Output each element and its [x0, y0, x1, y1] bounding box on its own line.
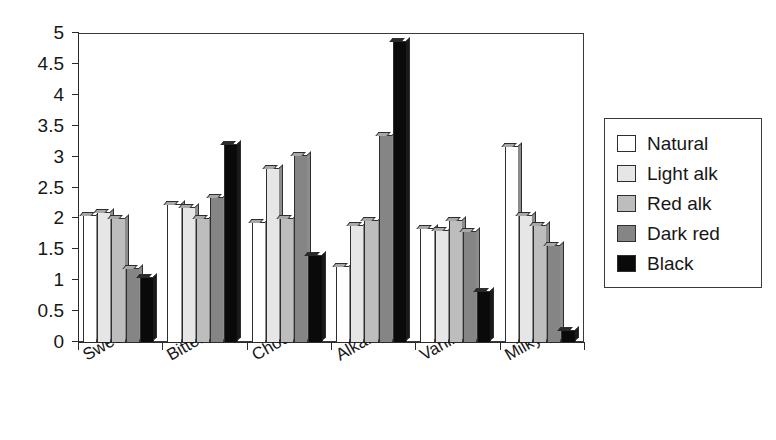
bar-top-face: [431, 227, 447, 231]
chart-legend: NaturalLight alkRed alkDark redBlack: [604, 118, 762, 288]
bar-dark-red-sweet: [126, 268, 140, 342]
bar-top-face: [248, 219, 264, 223]
bar-top-face: [529, 222, 545, 226]
bar-top-face: [558, 327, 574, 331]
bar-dark-red-chocolate: [294, 155, 308, 342]
bar-red-alk-alkaline: [364, 220, 378, 342]
bar-top-face: [501, 143, 517, 147]
y-axis-tick-label: 0.5: [38, 301, 64, 320]
bar-light-alk-chocolate: [266, 168, 280, 342]
bar-light-alk-sweet: [97, 212, 111, 342]
legend-item-label: Red alk: [647, 194, 711, 213]
bar-dark-red-vanilla: [463, 231, 477, 342]
bar-top-face: [192, 215, 208, 219]
bar-dark-red-bitter: [210, 197, 224, 342]
legend-item-red-alk[interactable]: Red alk: [617, 188, 751, 218]
bar-side-face: [575, 326, 579, 341]
bar-top-face: [515, 212, 531, 216]
bar-top-face: [220, 141, 236, 145]
y-axis-tick-label: 5: [53, 23, 64, 42]
bar-black-sweet: [140, 277, 154, 342]
bar-top-face: [445, 217, 461, 221]
legend-swatch-icon: [617, 165, 636, 182]
bar-top-face: [206, 194, 222, 198]
bar-top-face: [389, 38, 405, 42]
bar-light-alk-vanilla: [435, 230, 449, 342]
y-axis-tick-label: 3.5: [38, 115, 64, 134]
bar-light-alk-alkaline: [350, 225, 364, 342]
legend-item-label: Light alk: [647, 164, 718, 183]
bar-black-alkaline: [393, 41, 407, 342]
bar-natural-milky: [505, 146, 519, 342]
bar-light-alk-bitter: [182, 207, 196, 342]
bar-top-face: [347, 222, 363, 226]
y-axis-tick-label: 1.5: [38, 239, 64, 258]
bar-dark-red-alkaline: [379, 135, 393, 342]
bar-top-face: [136, 274, 152, 278]
bar-side-face: [322, 252, 326, 341]
x-axis-tick: [584, 342, 585, 350]
bar-top-face: [291, 152, 307, 156]
bar-natural-chocolate: [252, 222, 266, 343]
bar-top-face: [473, 288, 489, 292]
y-axis-tick-label: 3: [53, 146, 64, 165]
bar-top-face: [262, 165, 278, 169]
bar-top-face: [417, 225, 433, 229]
legend-item-light-alk[interactable]: Light alk: [617, 158, 751, 188]
y-axis-tick-label: 2.5: [38, 177, 64, 196]
bar-side-face: [237, 141, 241, 341]
legend-swatch-icon: [617, 225, 636, 242]
legend-item-label: Black: [647, 254, 693, 273]
y-axis-tick-label: 0: [53, 332, 64, 351]
bar-red-alk-chocolate: [280, 218, 294, 342]
bar-red-alk-vanilla: [449, 220, 463, 342]
bar-chart: 00.511.522.533.544.55 SweetBitterChocola…: [0, 0, 776, 440]
legend-item-black[interactable]: Black: [617, 248, 751, 278]
bars-layer: [78, 33, 584, 342]
legend-swatch-icon: [617, 255, 636, 272]
bar-top-face: [361, 217, 377, 221]
bar-top-face: [375, 132, 391, 136]
bar-side-face: [406, 37, 410, 340]
legend-item-label: Natural: [647, 134, 708, 153]
bar-natural-vanilla: [420, 228, 434, 342]
bar-black-bitter: [224, 144, 238, 342]
bar-natural-sweet: [83, 215, 97, 342]
y-axis-tick-label: 2: [53, 208, 64, 227]
legend-swatch-icon: [617, 195, 636, 212]
bar-top-face: [94, 209, 110, 213]
bar-black-milky: [561, 330, 575, 342]
bar-top-face: [108, 215, 124, 219]
bar-side-face: [560, 241, 564, 340]
legend-item-natural[interactable]: Natural: [617, 128, 751, 158]
bar-top-face: [459, 228, 475, 232]
x-axis-tick: [78, 342, 79, 350]
bar-natural-alkaline: [336, 266, 350, 342]
bar-top-face: [122, 265, 138, 269]
bar-top-face: [276, 215, 292, 219]
legend-item-dark-red[interactable]: Dark red: [617, 218, 751, 248]
bar-red-alk-sweet: [111, 218, 125, 342]
y-axis-tick-label: 1: [53, 270, 64, 289]
bar-top-face: [178, 204, 194, 208]
bar-side-face: [153, 273, 157, 340]
bar-top-face: [544, 242, 560, 246]
bar-top-face: [332, 263, 348, 267]
y-axis-tick-label: 4.5: [38, 53, 64, 72]
legend-item-label: Dark red: [647, 224, 720, 243]
bar-red-alk-bitter: [196, 218, 210, 342]
bar-black-chocolate: [308, 255, 322, 342]
bar-top-face: [164, 201, 180, 205]
x-axis-tick: [500, 342, 501, 350]
bar-natural-bitter: [167, 204, 181, 342]
bar-light-alk-milky: [519, 215, 533, 342]
bar-top-face: [305, 252, 321, 256]
x-axis-tick: [331, 342, 332, 350]
bar-black-vanilla: [477, 291, 491, 342]
y-axis-tick-label: 4: [53, 84, 64, 103]
legend-swatch-icon: [617, 135, 636, 152]
x-axis-tick: [247, 342, 248, 350]
bar-side-face: [490, 287, 494, 341]
